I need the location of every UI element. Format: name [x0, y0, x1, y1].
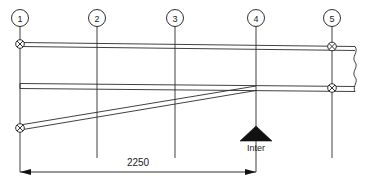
node-marker-gridline-1-top — [16, 40, 25, 49]
support-triangle-icon — [240, 126, 272, 141]
top-chord-member — [20, 43, 355, 51]
node-marker-gridline-5-middle — [328, 84, 337, 93]
support-label: Inter — [247, 143, 265, 153]
top-chord-lower-line — [20, 47, 355, 51]
grid-bubble-4[interactable]: 4 — [248, 10, 265, 27]
grid-bubble-1[interactable]: 1 — [12, 10, 29, 27]
grid-bubble-label: 4 — [253, 14, 258, 24]
diagonal-brace-member — [20, 86, 256, 130]
grid-bubble-3[interactable]: 3 — [167, 10, 184, 27]
dimension-value: 2250 — [127, 157, 150, 168]
grid-bubble-label: 3 — [172, 14, 177, 24]
dimension-arrowhead-left — [20, 169, 31, 175]
diagonal-brace-lower-line — [20, 91, 256, 131]
dimension-arrowhead-right — [245, 169, 256, 175]
diagonal-brace-upper-line — [20, 86, 256, 125]
grid-bubble-label: 1 — [17, 14, 22, 24]
grid-bubbles-group: 1 2 3 4 5 — [12, 10, 341, 27]
dimension-2250: 2250 — [20, 157, 256, 175]
middle-chord-lower-line — [20, 89, 355, 92]
support-marker-inter: Inter — [240, 126, 272, 153]
grid-bubble-label: 2 — [94, 14, 99, 24]
break-line-right — [354, 47, 356, 92]
grid-bubble-label: 5 — [329, 14, 334, 24]
top-chord-upper-line — [20, 43, 355, 47]
drawing-canvas: 1 2 3 4 5 Inter — [0, 0, 387, 189]
middle-chord-upper-line — [20, 84, 355, 87]
node-marker-gridline-1-bottom — [16, 124, 25, 133]
node-marker-gridline-5-top — [328, 42, 337, 51]
grid-bubble-5[interactable]: 5 — [324, 10, 341, 27]
middle-chord-member — [20, 84, 355, 92]
structural-elevation-drawing: 1 2 3 4 5 Inter — [0, 0, 387, 189]
grid-bubble-2[interactable]: 2 — [89, 10, 106, 27]
